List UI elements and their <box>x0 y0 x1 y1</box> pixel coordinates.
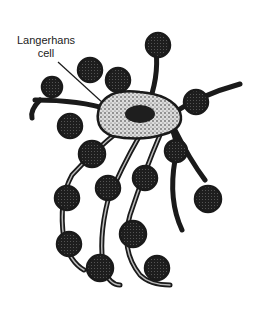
nucleus <box>125 105 155 123</box>
cell-illustration <box>0 0 256 312</box>
keratinocytes <box>42 33 221 281</box>
